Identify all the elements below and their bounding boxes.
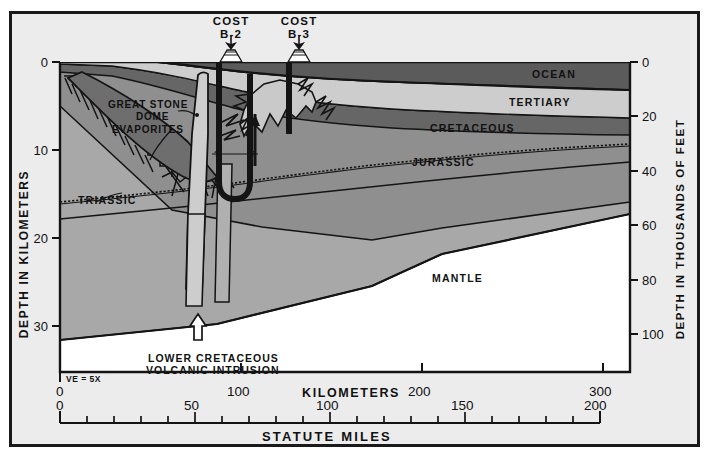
well-b3-name: COST — [281, 15, 318, 27]
right-axis-title: DEPTH IN THOUSANDS OF FEET — [674, 119, 686, 339]
right-tick-20: 20 — [642, 109, 656, 124]
mi-tick-200: 200 — [584, 398, 607, 413]
label-tertiary: TERTIARY — [509, 96, 571, 108]
left-tick-20: 20 — [34, 231, 48, 246]
left-axis-title: DEPTH IN KILOMETERS — [17, 170, 31, 338]
label-cretaceous: CRETACEOUS — [430, 122, 515, 134]
figure-frame: OCEAN TERTIARY CRETACEOUS JURASSIC TRIAS… — [9, 11, 700, 447]
km-tick-200: 200 — [408, 384, 431, 399]
label-query-left: ? — [214, 149, 220, 159]
mi-tick-100: 100 — [316, 398, 339, 413]
dome-leader-dot — [195, 113, 199, 117]
well-markers: COST B-2 COST B-3 — [213, 15, 318, 62]
label-mantle: MANTLE — [432, 272, 483, 284]
right-axis: 0 20 40 60 80 100 — [630, 55, 664, 342]
statute-miles-axis: 0 50 100 150 200 STATUTE MILES — [56, 398, 607, 444]
km-tick-100: 100 — [227, 384, 250, 399]
km-tick-0: 0 — [56, 384, 64, 399]
label-great-stone-dome-2: DOME — [136, 111, 169, 122]
figure-root: OCEAN TERTIARY CRETACEOUS JURASSIC TRIAS… — [0, 0, 711, 459]
mi-tick-50: 50 — [184, 398, 199, 413]
label-triassic: TRIASSIC — [78, 194, 137, 206]
label-jurassic: JURASSIC — [412, 156, 475, 168]
mi-tick-150: 150 — [451, 398, 474, 413]
volcanic-intrusion-column — [186, 214, 205, 306]
left-tick-10: 10 — [34, 143, 48, 158]
well-b2-name: COST — [213, 15, 250, 27]
well-b2-designation: B-2 — [220, 28, 242, 40]
left-tick-30: 30 — [34, 319, 48, 334]
cross-section-canvas: OCEAN TERTIARY CRETACEOUS JURASSIC TRIAS… — [12, 14, 697, 444]
mi-tick-0: 0 — [56, 398, 64, 413]
right-tick-40: 40 — [642, 164, 656, 179]
label-ocean: OCEAN — [532, 68, 576, 80]
left-tick-0: 0 — [41, 55, 48, 70]
label-intrusion-1: LOWER CRETACEOUS — [148, 352, 279, 364]
miles-axis-title: STATUTE MILES — [262, 429, 392, 444]
right-tick-0: 0 — [642, 55, 649, 70]
right-tick-60: 60 — [642, 218, 656, 233]
label-great-stone-dome-1: GREAT STONE — [108, 99, 188, 110]
right-tick-80: 80 — [642, 273, 656, 288]
km-tick-300: 300 — [589, 384, 612, 399]
well-b3-designation: B-3 — [288, 28, 310, 40]
label-evaporites: EVAPORITES — [112, 124, 184, 135]
label-intrusion-2: VOLCANIC INTRUSION — [146, 364, 280, 376]
label-ve-note: VE = 5X — [66, 374, 101, 384]
right-tick-100: 100 — [642, 327, 664, 342]
left-axis: 0 10 20 30 — [34, 55, 60, 334]
label-query-right: ? — [250, 149, 256, 159]
